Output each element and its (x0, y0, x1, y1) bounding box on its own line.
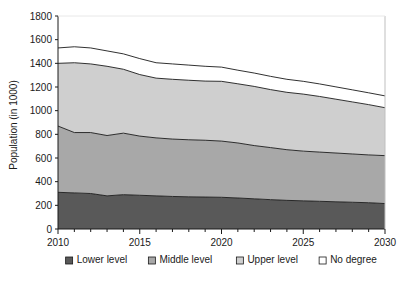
y-axis-tick-label: 200 (35, 200, 52, 211)
x-axis-tick-label: 2030 (374, 237, 397, 248)
chart-canvas: Population (in 1000) 0200400600800100012… (0, 0, 405, 283)
x-axis-tick-labels: 20102015202020252030 (47, 237, 397, 248)
legend-label-upper-level: Upper level (247, 254, 298, 265)
x-axis-tick-label: 2025 (292, 237, 315, 248)
y-axis-tick-label: 0 (46, 224, 52, 235)
legend-swatch-no-degree (319, 257, 326, 264)
y-axis-tick-labels: 020040060080010001200140016001800 (30, 11, 53, 235)
y-axis-tick-label: 1000 (30, 105, 53, 116)
y-axis-tick-label: 1800 (30, 11, 53, 22)
y-axis-tick-label: 800 (35, 129, 52, 140)
legend-label-no-degree: No degree (330, 254, 377, 265)
y-axis-tick-label: 1400 (30, 58, 53, 69)
y-axis-title: Population (in 1000) (8, 80, 19, 170)
y-axis-tick-label: 1600 (30, 34, 53, 45)
y-axis-tick-label: 400 (35, 176, 52, 187)
legend-swatch-lower-level (66, 257, 73, 264)
y-axis-tick-label: 1200 (30, 82, 53, 93)
chart-legend: Lower levelMiddle levelUpper levelNo deg… (66, 254, 378, 265)
legend-label-lower-level: Lower level (77, 254, 128, 265)
y-axis-tick-label: 600 (35, 153, 52, 164)
x-axis-tick-label: 2015 (129, 237, 152, 248)
stacked-area-chart: Population (in 1000) 0200400600800100012… (0, 0, 405, 283)
legend-swatch-upper-level (236, 257, 243, 264)
x-axis-tick-label: 2010 (47, 237, 70, 248)
legend-label-middle-level: Middle level (159, 254, 212, 265)
x-axis-tick-marks (58, 229, 385, 234)
legend-swatch-middle-level (148, 257, 155, 264)
x-axis-tick-label: 2020 (210, 237, 233, 248)
